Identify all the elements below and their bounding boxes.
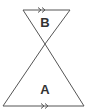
label-b: B — [40, 15, 49, 30]
triangle-diagram: B A — [0, 0, 86, 110]
label-a: A — [40, 82, 50, 97]
